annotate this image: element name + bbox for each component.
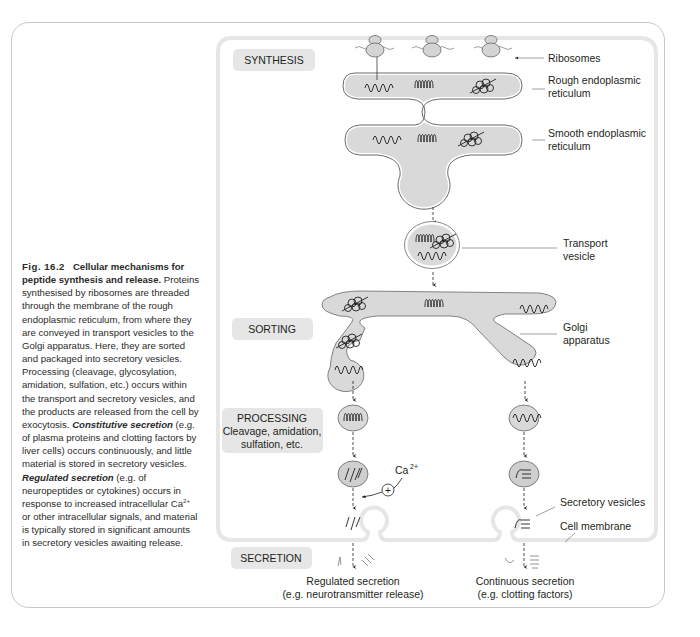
svg-text:sulfation, etc.: sulfation, etc.: [241, 438, 303, 450]
label-rer-1: Rough endoplasmic: [548, 74, 641, 86]
label-regulated-1: Regulated secretion: [306, 575, 400, 587]
svg-text:SYNTHESIS: SYNTHESIS: [244, 54, 304, 66]
label-golgi-1: Golgi: [563, 321, 588, 333]
label-transport-1: Transport: [563, 237, 608, 249]
svg-text:SORTING: SORTING: [248, 323, 296, 335]
transport-vesicle: [405, 222, 460, 269]
label-continuous-1: Continuous secretion: [476, 575, 575, 587]
label-ser-1: Smooth endoplasmic: [548, 127, 646, 139]
secretion-diagram: SYNTHESIS SORTING PROCESSING Cleavage, a…: [0, 0, 700, 637]
svg-text:SECRETION: SECRETION: [240, 552, 301, 564]
stage-synthesis: SYNTHESIS: [233, 49, 315, 71]
label-rer-2: reticulum: [548, 87, 591, 99]
endoplasmic-reticulum: [343, 73, 522, 209]
label-ser-2: reticulum: [548, 140, 591, 152]
stage-sorting: SORTING: [232, 318, 313, 340]
label-continuous-2: (e.g. clotting factors): [477, 588, 572, 600]
stage-secretion: SECRETION: [231, 547, 312, 569]
svg-text:Ca: Ca: [395, 464, 409, 476]
plus-icon: +: [385, 485, 391, 496]
calcium-signal: Ca 2+ +: [362, 463, 418, 497]
golgi-apparatus: [322, 291, 556, 392]
label-golgi-2: apparatus: [563, 334, 610, 346]
label-regulated-2: (e.g. neurotransmitter release): [282, 588, 423, 600]
stage-processing: PROCESSING Cleavage, amidation, sulfatio…: [222, 408, 323, 453]
label-transport-2: vesicle: [563, 250, 595, 262]
svg-text:Cleavage, amidation,: Cleavage, amidation,: [223, 425, 322, 437]
svg-text:2+: 2+: [410, 463, 418, 470]
svg-text:PROCESSING: PROCESSING: [237, 412, 307, 424]
label-secretory-vesicles: Secretory vesicles: [560, 496, 645, 508]
cell-membrane: [218, 38, 656, 540]
label-cell-membrane: Cell membrane: [560, 520, 631, 532]
label-ribosomes: Ribosomes: [548, 52, 601, 64]
